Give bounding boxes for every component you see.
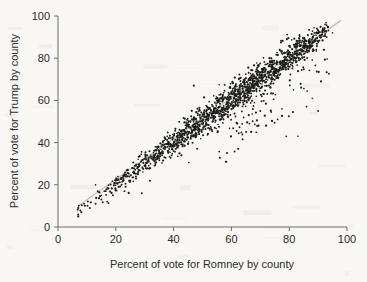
data-point bbox=[236, 100, 238, 102]
data-point bbox=[256, 80, 258, 82]
data-point bbox=[275, 62, 277, 64]
data-point bbox=[283, 66, 285, 68]
data-point bbox=[246, 85, 248, 87]
data-point bbox=[191, 130, 193, 132]
data-point bbox=[141, 167, 143, 169]
data-point bbox=[264, 81, 266, 83]
data-point bbox=[197, 114, 199, 116]
data-point bbox=[223, 114, 225, 116]
data-point bbox=[238, 93, 240, 95]
data-point bbox=[140, 153, 142, 155]
data-point bbox=[176, 135, 178, 137]
data-point bbox=[190, 132, 192, 134]
data-point bbox=[246, 81, 248, 83]
x-tick-label: 80 bbox=[283, 233, 295, 245]
data-point bbox=[224, 84, 226, 86]
data-point bbox=[102, 201, 104, 203]
data-point bbox=[247, 94, 249, 96]
data-point bbox=[213, 110, 215, 112]
data-point bbox=[108, 184, 110, 186]
data-point bbox=[262, 71, 264, 73]
data-point bbox=[202, 123, 204, 125]
data-point bbox=[317, 110, 319, 112]
data-point bbox=[142, 162, 144, 164]
data-point bbox=[138, 169, 140, 171]
data-point bbox=[217, 130, 219, 132]
data-point bbox=[306, 90, 308, 92]
scan-artifact bbox=[302, 83, 330, 87]
data-point bbox=[183, 140, 185, 142]
data-point bbox=[142, 159, 144, 161]
data-point bbox=[245, 89, 247, 91]
data-point bbox=[247, 67, 249, 69]
data-point bbox=[161, 152, 163, 154]
data-point bbox=[220, 97, 222, 99]
data-point bbox=[188, 124, 190, 126]
data-point bbox=[190, 127, 192, 129]
data-point bbox=[185, 127, 187, 129]
data-point bbox=[162, 160, 164, 162]
data-point bbox=[171, 153, 173, 155]
data-point bbox=[287, 49, 289, 51]
scan-artifact bbox=[310, 112, 319, 114]
data-point bbox=[135, 177, 137, 179]
scan-artifact bbox=[164, 218, 186, 220]
data-point bbox=[285, 135, 287, 137]
data-point bbox=[297, 40, 299, 42]
scan-artifact bbox=[345, 271, 349, 275]
data-point bbox=[314, 38, 316, 40]
data-point bbox=[95, 184, 97, 186]
data-point bbox=[252, 76, 254, 78]
data-point bbox=[219, 100, 221, 102]
scan-artifact bbox=[143, 64, 167, 69]
data-point bbox=[237, 105, 239, 107]
data-point bbox=[279, 60, 281, 62]
data-point bbox=[281, 50, 283, 52]
data-point bbox=[200, 120, 202, 122]
data-point bbox=[192, 142, 194, 144]
data-point bbox=[129, 180, 131, 182]
data-point bbox=[266, 93, 268, 95]
data-point bbox=[237, 148, 239, 150]
data-point bbox=[243, 117, 245, 119]
data-point bbox=[141, 151, 143, 153]
data-point bbox=[77, 207, 79, 209]
data-point bbox=[182, 146, 184, 148]
data-point bbox=[306, 106, 308, 108]
data-point bbox=[270, 92, 272, 94]
scan-artifact bbox=[180, 185, 191, 190]
data-point bbox=[205, 105, 207, 107]
data-point bbox=[231, 81, 233, 83]
data-point bbox=[124, 190, 126, 192]
data-point bbox=[271, 65, 273, 67]
data-point bbox=[218, 113, 220, 115]
data-point bbox=[213, 107, 215, 109]
data-point bbox=[231, 93, 233, 95]
data-point bbox=[323, 49, 325, 51]
data-point bbox=[235, 84, 237, 86]
data-point bbox=[218, 84, 220, 86]
data-point bbox=[160, 149, 162, 151]
data-point bbox=[279, 63, 281, 65]
data-point bbox=[238, 73, 240, 75]
data-point bbox=[183, 121, 185, 123]
data-point bbox=[251, 85, 253, 87]
data-point bbox=[147, 161, 149, 163]
data-point bbox=[307, 34, 309, 36]
data-point bbox=[320, 36, 322, 38]
data-point bbox=[175, 139, 177, 141]
data-point bbox=[322, 35, 324, 37]
data-point bbox=[252, 120, 254, 122]
data-point bbox=[323, 30, 325, 32]
data-point bbox=[228, 102, 230, 104]
data-point bbox=[214, 120, 216, 122]
data-point bbox=[239, 93, 241, 95]
data-point bbox=[268, 72, 270, 74]
data-point bbox=[285, 57, 287, 59]
data-point bbox=[277, 77, 279, 79]
data-point bbox=[210, 112, 212, 114]
y-tick-label: 40 bbox=[38, 137, 50, 149]
data-point bbox=[272, 82, 274, 84]
data-point bbox=[130, 174, 132, 176]
data-point bbox=[136, 167, 138, 169]
